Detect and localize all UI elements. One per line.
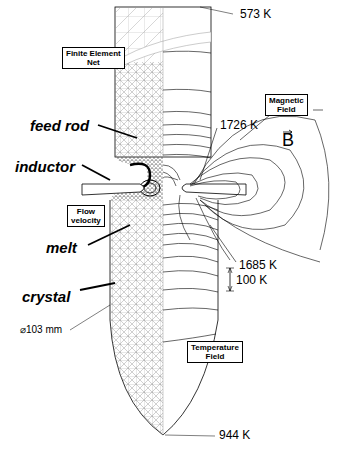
inductor-label: inductor (15, 158, 75, 175)
melt-label: melt (46, 239, 77, 256)
temp-melt-top-label: 1726 K (220, 118, 258, 132)
finite-element-net-box: Finite Element Net (62, 47, 125, 69)
flow-velocity-box: Flow velocity (67, 205, 105, 227)
feed-rod-shape (115, 7, 211, 157)
diagram-canvas (0, 0, 337, 452)
diameter-label: ⌀103 mm (20, 324, 62, 335)
temp-scale-label: 100 K (236, 273, 267, 287)
temp-bottom-label: 944 K (219, 428, 250, 442)
crystal-label: crystal (22, 288, 70, 305)
isotherms (163, 51, 218, 342)
temperature-field-box: Temperature Field (187, 341, 243, 363)
b-vector-label: B (282, 130, 294, 151)
feed-rod-label: feed rod (30, 117, 89, 134)
temp-melt-bottom-label: 1685 K (239, 258, 277, 272)
leader-lines (70, 7, 323, 436)
melt-zone-shape (110, 157, 163, 200)
magnetic-field-box: Magnetic Field (265, 94, 308, 116)
temp-top-label: 573 K (240, 7, 271, 21)
